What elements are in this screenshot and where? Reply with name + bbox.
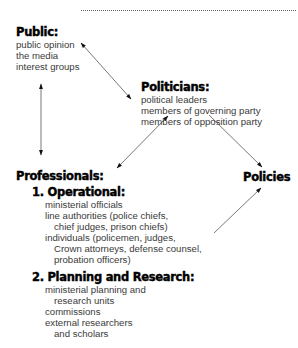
operational-item: ministerial officials [45, 199, 202, 210]
public-title: Public: [16, 26, 79, 39]
public-item: public opinion [16, 39, 79, 50]
node-politicians: Politicians: political leaders members o… [141, 81, 262, 127]
public-item: the media [16, 50, 79, 61]
node-public: Public: public opinion the media interes… [16, 26, 79, 72]
politicians-item: members of governing party [141, 105, 262, 116]
planning-item: external researchers [45, 317, 202, 328]
professionals-title: Professionals: [16, 170, 202, 183]
arrow-public-politicians [81, 43, 131, 99]
arrow-professionals-policies [214, 188, 261, 233]
operational-title: 1. Operational: [32, 186, 202, 199]
node-policies: Policies [243, 171, 290, 184]
planning-item: ministerial planning and [45, 284, 202, 295]
planning-item: research units [45, 295, 202, 306]
policies-title: Policies [243, 171, 290, 184]
operational-item: Crown attorneys, defense counsel, [45, 243, 202, 254]
planning-section: 2. Planning and Research: ministerial pl… [16, 271, 202, 339]
operational-item: line authorities (police chiefs, [45, 210, 202, 221]
operational-item: individuals (policemen, judges, [45, 232, 202, 243]
node-professionals: Professionals: 1. Operational: ministeri… [16, 170, 202, 339]
planning-title: 2. Planning and Research: [32, 271, 202, 284]
politicians-item: political leaders [141, 94, 262, 105]
operational-section: 1. Operational: ministerial officials li… [16, 186, 202, 265]
politicians-title: Politicians: [141, 81, 262, 94]
planning-item: and scholars [45, 328, 202, 339]
public-item: interest groups [16, 61, 79, 72]
operational-item: chief judges, prison chiefs) [45, 221, 202, 232]
politicians-item: members of opposition party [141, 116, 262, 127]
planning-item: commissions [45, 306, 202, 317]
operational-item: probation officers) [45, 254, 202, 265]
